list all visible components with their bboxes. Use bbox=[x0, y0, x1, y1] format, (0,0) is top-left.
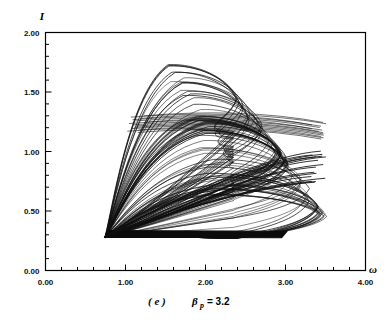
y-axis-label: I bbox=[39, 10, 45, 22]
caption-index: ( e ) bbox=[148, 295, 166, 308]
figure-panel: 0.001.002.003.004.00 0.000.501.001.502.0… bbox=[0, 0, 387, 328]
phase-portrait-chart: 0.001.002.003.004.00 0.000.501.001.502.0… bbox=[0, 0, 387, 328]
x-tick-label: 4.00 bbox=[358, 278, 374, 287]
x-tick-label: 2.00 bbox=[198, 278, 214, 287]
y-tick-label: 2.00 bbox=[24, 29, 40, 38]
attractor-lower-edge bbox=[105, 231, 287, 238]
x-tick-label: 3.00 bbox=[278, 278, 294, 287]
caption-beta-subscript: p bbox=[199, 301, 204, 310]
y-tick-label: 0.50 bbox=[24, 207, 40, 216]
x-tick-label: 1.00 bbox=[118, 278, 134, 287]
y-tick-label: 0.00 bbox=[24, 267, 40, 276]
x-axis-label: ω bbox=[369, 263, 377, 275]
y-tick-label: 1.50 bbox=[24, 88, 40, 97]
x-tick-label: 0.00 bbox=[38, 278, 54, 287]
y-tick-label: 1.00 bbox=[24, 148, 40, 157]
caption-beta-symbol: β bbox=[191, 295, 198, 307]
figure-background bbox=[0, 0, 387, 328]
caption-value: = 3.2 bbox=[207, 296, 230, 307]
